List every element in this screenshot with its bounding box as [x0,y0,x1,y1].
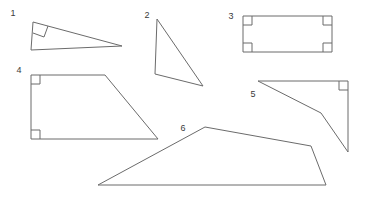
shapes-diagram: 123456 [0,0,366,204]
shape-5: 5 [250,81,348,152]
shape-5-outline [258,81,348,152]
shape-1-right-angle-marker-1 [33,26,48,37]
shape-2: 2 [144,10,203,86]
shape-5-right-angle-marker-1 [339,81,348,90]
shape-4-label: 4 [16,65,21,75]
shape-4-outline [31,75,158,139]
shape-4: 4 [16,65,158,139]
shape-4-right-angle-marker-2 [31,130,40,139]
shape-2-outline [155,19,203,86]
shape-3-outline [243,16,332,52]
shape-6: 6 [98,123,326,185]
shape-5-label: 5 [250,89,255,99]
shape-6-label: 6 [180,123,185,133]
figure-canvas: 123456 [0,0,366,204]
shape-3-right-angle-marker-4 [323,43,332,52]
shape-1-label: 1 [10,8,15,18]
shape-3-right-angle-marker-3 [243,43,252,52]
shape-3-right-angle-marker-2 [323,16,332,25]
shape-3-label: 3 [228,11,233,21]
shape-1: 1 [10,8,122,50]
shape-6-outline [98,127,326,185]
shape-3-right-angle-marker-1 [243,16,252,25]
shape-2-label: 2 [144,10,149,20]
shape-3: 3 [228,11,332,52]
shape-4-right-angle-marker-1 [31,75,40,84]
